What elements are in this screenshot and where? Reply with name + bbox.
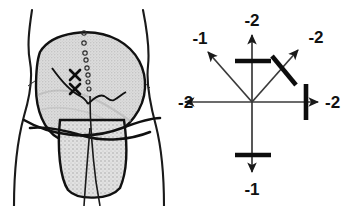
- label-right: -2: [325, 93, 340, 112]
- anatomy-panel: [0, 0, 176, 206]
- figure-root: -2 -1 -2 -2 -2 -1: [0, 0, 351, 206]
- label-top-right: -2: [308, 28, 323, 47]
- label-top-left: -1: [192, 29, 207, 48]
- label-bottom: -1: [244, 180, 259, 199]
- label-top: -2: [244, 11, 259, 30]
- anatomy-illustration: [0, 0, 176, 206]
- label-left: -2: [178, 93, 193, 112]
- vector-panel: -2 -1 -2 -2 -2 -1: [176, 0, 351, 206]
- vector-diagram: -2 -1 -2 -2 -2 -1: [176, 0, 351, 206]
